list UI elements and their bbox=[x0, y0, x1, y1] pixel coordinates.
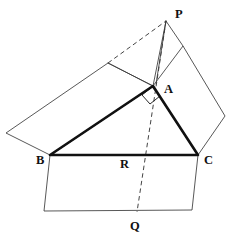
vertex-label-q: Q bbox=[130, 219, 140, 233]
vertex-label-p: P bbox=[175, 7, 183, 21]
euclid-pythagorean-diagram: A B C P Q R bbox=[0, 0, 230, 237]
vertex-label-c: C bbox=[204, 153, 213, 167]
vertex-label-a: A bbox=[164, 82, 173, 96]
geometry-figure-container: A B C P Q R bbox=[0, 0, 230, 237]
dashed-line-ab-corner-to-p bbox=[108, 21, 166, 63]
vertex-label-b: B bbox=[36, 153, 44, 167]
vertex-label-r: R bbox=[120, 157, 130, 171]
construction-line-p-to-ac-corner bbox=[166, 21, 183, 46]
right-triangle-abc bbox=[50, 86, 198, 155]
right-angle-marker-icon bbox=[142, 87, 160, 104]
square-on-ab bbox=[6, 63, 153, 155]
construction-line-ab-corner-to-a bbox=[108, 63, 153, 86]
